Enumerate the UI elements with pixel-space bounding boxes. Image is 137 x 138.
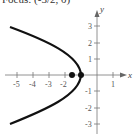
x-tick-label: -5 [13,80,20,89]
x-axis-arrow-icon [120,73,127,78]
y-tick-label: 3 [88,22,92,31]
x-tick-label: -4 [29,80,36,89]
y-tick-label: -1 [85,87,92,96]
x-axis-label: x [127,70,132,80]
y-tick-label: 2 [88,39,92,48]
focus-point [69,72,75,78]
y-tick-label: -2 [85,104,92,113]
x-tick-label: -3 [45,80,52,89]
y-tick-label: 1 [88,55,92,64]
x-tick-label: -2 [60,80,67,89]
chart-plot: -5 -4 -3 -2 1 x 3 2 1 -1 -2 -3 y [0,0,137,138]
vertex-point [78,72,84,78]
x-tick-label: 1 [111,80,115,89]
y-tick-label: -3 [85,120,92,129]
y-axis-label: y [99,4,104,14]
y-axis-arrow-icon [95,10,100,17]
